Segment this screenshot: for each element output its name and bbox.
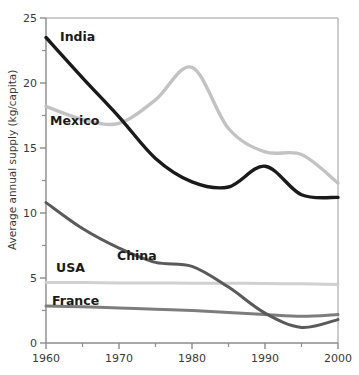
chart-container: 0510152025 19601970198019902000 Average … <box>0 0 359 375</box>
x-tick-label: 1990 <box>251 352 279 365</box>
series-label-mexico: Mexico <box>50 113 100 128</box>
series-label-china: China <box>117 248 157 263</box>
y-tick-label: 0 <box>30 337 37 350</box>
series-label-france: France <box>52 293 99 308</box>
x-tick-label: 1960 <box>32 352 60 365</box>
x-axis-tick-labels: 19601970198019902000 <box>32 352 352 365</box>
y-tick-label: 25 <box>23 12 37 25</box>
x-tick-label: 1980 <box>178 352 206 365</box>
series-lines <box>46 38 338 328</box>
series-label-india: India <box>60 29 95 44</box>
series-line-china <box>46 203 338 328</box>
line-chart: 0510152025 19601970198019902000 Average … <box>0 0 359 375</box>
x-tick-label: 1970 <box>105 352 133 365</box>
x-tick-label: 2000 <box>324 352 352 365</box>
series-line-usa <box>46 283 338 285</box>
y-tick-label: 15 <box>23 142 37 155</box>
y-axis-title: Average annual supply (kg/capita) <box>6 70 18 250</box>
y-axis-ticks <box>40 18 46 343</box>
x-axis-ticks <box>46 343 338 349</box>
y-tick-label: 20 <box>23 77 37 90</box>
series-label-usa: USA <box>56 260 85 275</box>
y-tick-label: 5 <box>30 272 37 285</box>
y-tick-label: 10 <box>23 207 37 220</box>
series-inline-labels: IndiaMexicoChinaUSAFrance <box>50 29 157 308</box>
y-axis-tick-labels: 0510152025 <box>23 12 37 350</box>
